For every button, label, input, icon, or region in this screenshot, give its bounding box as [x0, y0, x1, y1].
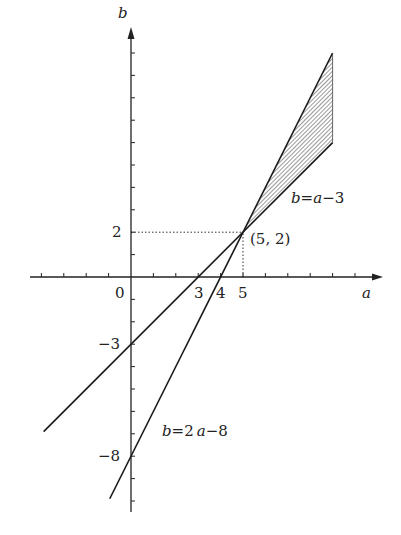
eq1-var-b: b	[291, 189, 301, 207]
graph-figure: b a 0 3 4 5 2 −3 −8 (5, 2) b=a−3 b=2 a−8	[0, 0, 401, 535]
origin-label: 0	[115, 284, 125, 302]
x-tick-label-5: 5	[238, 284, 248, 302]
x-axis-arrow-icon	[372, 274, 383, 281]
y-axis-label: b	[118, 4, 128, 22]
eq2-var-a: a	[197, 422, 206, 440]
eq1-equals: =	[301, 189, 314, 207]
equation-label-line2: b=2 a−8	[162, 422, 228, 440]
eq2-equals: =2	[172, 422, 197, 440]
x-axis-label: a	[362, 284, 371, 302]
y-tick-label-2: 2	[112, 223, 122, 241]
x-tick-label-4: 4	[216, 284, 226, 302]
line-b-eq-a-minus-3	[44, 143, 333, 432]
intersection-label: (5, 2)	[250, 230, 290, 248]
dotted-guides	[131, 232, 243, 277]
y-axis-arrow-icon	[128, 27, 135, 39]
eq2-const: −8	[206, 422, 228, 440]
y-tick-label-minus-8: −8	[98, 447, 120, 465]
y-tick-label-minus-3: −3	[98, 335, 120, 353]
eq1-const: −3	[322, 189, 344, 207]
equation-label-line1: b=a−3	[291, 189, 344, 207]
eq1-var-a: a	[313, 189, 322, 207]
eq2-var-b: b	[162, 422, 172, 440]
x-tick-label-3: 3	[194, 284, 204, 302]
